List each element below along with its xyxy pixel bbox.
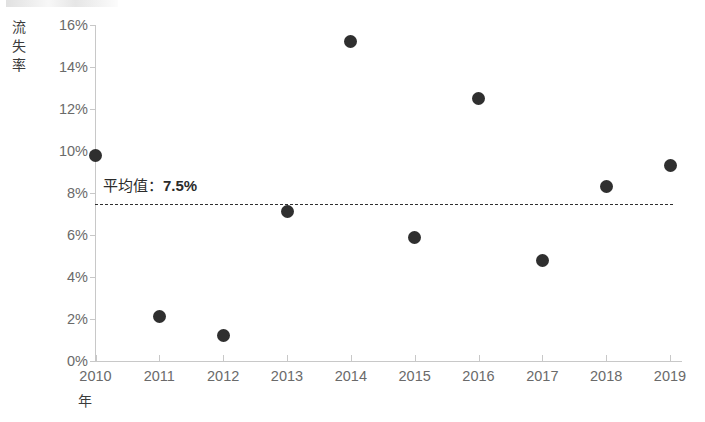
data-point[interactable] [536,254,549,267]
x-axis-tick-label: 2018 [571,368,641,384]
data-point[interactable] [217,329,230,342]
y-axis-tick-label: 12% [40,101,88,117]
x-axis-tick-label: 2019 [635,368,705,384]
scatter-chart: 流失率 0%2%4%6%8%10%12%14%16% 2010201120122… [0,0,705,422]
data-point[interactable] [153,310,166,323]
y-axis-tick-label: 2% [40,311,88,327]
y-axis-tick-label: 0% [40,353,88,369]
data-point[interactable] [664,159,677,172]
x-axis-tick-label: 2014 [316,368,386,384]
plot-area: 2010201120122013201420152016201720182019 [0,0,705,422]
data-point[interactable] [344,35,357,48]
average-annotation-prefix: 平均值： [103,177,163,194]
y-axis-tick-label: 8% [40,185,88,201]
x-axis-tick-label: 2013 [252,368,322,384]
x-axis-tick-label: 2015 [380,368,450,384]
average-annotation-label: 平均值：7.5% [103,174,197,195]
y-axis-tick-label: 4% [40,269,88,285]
y-axis-tick-labels: 0%2%4%6%8%10%12%14%16% [36,0,88,422]
x-axis-tick-label: 2016 [444,368,514,384]
y-axis-tick-label: 14% [40,59,88,75]
average-reference-line [95,204,673,205]
y-axis-tick-label: 16% [40,17,88,33]
x-axis-tick-label: 2017 [507,368,577,384]
y-axis-line [95,25,96,362]
x-axis-tick-label: 2012 [188,368,258,384]
data-point[interactable] [281,205,294,218]
x-axis-line [95,361,682,362]
average-annotation-value: 7.5% [163,177,197,194]
data-point[interactable] [600,180,613,193]
data-point[interactable] [89,149,102,162]
data-point[interactable] [472,92,485,105]
data-point[interactable] [408,231,421,244]
y-axis-title: 流失率 [8,18,30,75]
x-axis-tick-label: 2011 [124,368,194,384]
x-axis-title: 年 [78,390,92,410]
y-axis-tick-label: 10% [40,143,88,159]
y-axis-tick-label: 6% [40,227,88,243]
